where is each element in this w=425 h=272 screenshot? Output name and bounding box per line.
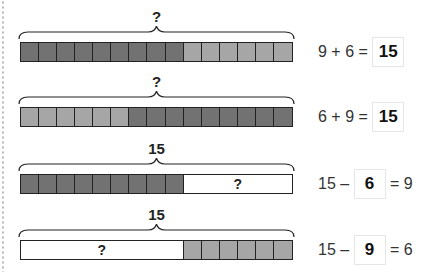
dark-unit-cell (129, 175, 147, 193)
light-unit-cell (256, 241, 274, 259)
dark-unit-cell (147, 43, 165, 61)
brace-label: ? (18, 8, 295, 25)
answer-box[interactable]: 9 (354, 235, 386, 265)
light-unit-cell (21, 108, 39, 126)
brace-label: 15 (18, 140, 295, 157)
unknown-segment: ? (184, 175, 292, 193)
equation-right: = 6 (386, 241, 413, 259)
equation: 15 – 9 = 6 (318, 235, 413, 265)
brace-label: 15 (18, 206, 295, 223)
dark-unit-cell (166, 108, 184, 126)
dark-unit-cell (93, 175, 111, 193)
curly-brace-icon (18, 26, 295, 40)
light-unit-cell (220, 241, 238, 259)
bar-model: ? (20, 174, 293, 194)
dark-unit-cell (93, 43, 111, 61)
light-unit-cell (274, 241, 292, 259)
dark-unit-cell (21, 43, 39, 61)
light-unit-cell (274, 43, 292, 61)
dark-unit-cell (202, 108, 220, 126)
dark-unit-cell (39, 175, 57, 193)
dark-unit-cell (166, 175, 184, 193)
light-unit-cell (256, 43, 274, 61)
equation: 15 – 6 = 9 (318, 169, 413, 199)
dotted-margin (2, 0, 4, 272)
dark-unit-cell (184, 108, 202, 126)
equation-left: 15 – (318, 175, 354, 193)
light-unit-cell (75, 108, 93, 126)
bar-model: ? (20, 240, 293, 260)
brace-label: ? (18, 73, 295, 90)
dark-unit-cell (147, 108, 165, 126)
dark-unit-cell (21, 175, 39, 193)
equation-left: 15 – (318, 241, 354, 259)
dark-unit-cell (39, 43, 57, 61)
dark-unit-cell (111, 43, 129, 61)
light-unit-cell (111, 108, 129, 126)
light-unit-cell (238, 43, 256, 61)
bar-model (20, 107, 293, 127)
dark-unit-cell (166, 43, 184, 61)
dark-unit-cell (256, 108, 274, 126)
equation-left: 6 + 9 = (318, 108, 372, 126)
answer-box[interactable]: 15 (372, 37, 404, 67)
dark-unit-cell (220, 108, 238, 126)
dark-unit-cell (129, 43, 147, 61)
dark-unit-cell (75, 175, 93, 193)
curly-brace-icon (18, 158, 295, 172)
dark-unit-cell (57, 175, 75, 193)
light-unit-cell (202, 241, 220, 259)
bar-model (20, 42, 293, 62)
light-unit-cell (39, 108, 57, 126)
light-unit-cell (93, 108, 111, 126)
unknown-segment: ? (21, 241, 184, 259)
dark-unit-cell (75, 43, 93, 61)
light-unit-cell (184, 43, 202, 61)
dark-unit-cell (274, 108, 292, 126)
curly-brace-icon (18, 91, 295, 105)
light-unit-cell (238, 241, 256, 259)
dark-unit-cell (57, 43, 75, 61)
answer-box[interactable]: 15 (372, 102, 404, 132)
answer-box[interactable]: 6 (354, 169, 386, 199)
dark-unit-cell (147, 175, 165, 193)
light-unit-cell (57, 108, 75, 126)
equation-right: = 9 (386, 175, 413, 193)
curly-brace-icon (18, 224, 295, 238)
dark-unit-cell (238, 108, 256, 126)
dark-unit-cell (111, 175, 129, 193)
dark-unit-cell (129, 108, 147, 126)
equation: 6 + 9 = 15 (318, 102, 404, 132)
light-unit-cell (184, 241, 202, 259)
equation-left: 9 + 6 = (318, 43, 372, 61)
light-unit-cell (202, 43, 220, 61)
equation: 9 + 6 = 15 (318, 37, 404, 67)
light-unit-cell (220, 43, 238, 61)
